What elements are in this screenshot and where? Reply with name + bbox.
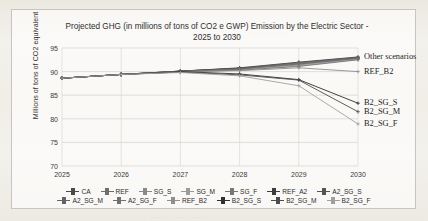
legend-marker-icon (217, 197, 230, 204)
plot-area: 707580859095202520262027202820292030 (62, 48, 358, 166)
annotation-label: REF_B2 (364, 67, 393, 77)
chart-legend: CAREFSG_SSG_MSG_FREF_A2A2_SG_SA2_SG_MA2_… (28, 188, 400, 204)
series-marker (297, 78, 301, 82)
legend-label: A2_SG_M (72, 197, 102, 204)
legend-label: REF_B2 (182, 197, 207, 204)
chart-container: Projected GHG (in millions of tons of CO… (11, 9, 416, 209)
legend-marker-icon (57, 197, 70, 204)
legend-item-b2_sg_f[interactable]: B2_SG_F (327, 197, 371, 204)
y-axis-title: Millions of tons of CO2 equivalent (32, 12, 39, 120)
legend-marker-icon (271, 197, 284, 204)
series-line (62, 72, 358, 104)
y-axis-tick: 80 (50, 115, 58, 122)
legend-label: A2_SG_S (332, 188, 361, 195)
legend-item-sg_m[interactable]: SG_M (181, 188, 215, 195)
legend-label: SG_S (154, 188, 172, 195)
legend-marker-icon (327, 197, 340, 204)
legend-marker-icon (101, 188, 114, 195)
annotation-label: Other scenarios (364, 52, 416, 62)
legend-row: CAREFSG_SSG_MSG_FREF_A2A2_SG_S (61, 188, 366, 195)
legend-item-sg_f[interactable]: SG_F (225, 188, 257, 195)
y-axis-tick: 75 (50, 139, 58, 146)
legend-item-b2_sg_s[interactable]: B2_SG_S (217, 197, 261, 204)
legend-marker-icon (139, 188, 152, 195)
legend-item-sg_s[interactable]: SG_S (139, 188, 172, 195)
x-axis-tick: 2026 (113, 171, 129, 178)
legend-marker-icon (113, 197, 126, 204)
series-marker (119, 73, 123, 77)
series-lines (60, 55, 360, 126)
legend-label: B2_SG_S (232, 197, 261, 204)
series-line (62, 72, 358, 112)
series-marker (356, 101, 360, 105)
legend-marker-icon (225, 188, 238, 195)
legend-item-b2_sg_m[interactable]: B2_SG_M (271, 197, 316, 204)
legend-label: REF_A2 (282, 188, 307, 195)
legend-item-ca[interactable]: CA (66, 188, 90, 195)
legend-label: A2_SG_F (128, 197, 157, 204)
annotation-label: B2_SG_F (364, 119, 398, 129)
x-axis-tick: 2028 (232, 171, 248, 178)
gridlines (62, 48, 358, 166)
y-axis-tick: 85 (50, 92, 58, 99)
legend-marker-icon (267, 188, 280, 195)
y-axis-tick: 90 (50, 68, 58, 75)
legend-marker-icon (317, 188, 330, 195)
legend-marker-icon (181, 188, 194, 195)
legend-label: REF (116, 188, 129, 195)
legend-label: B2_SG_F (342, 197, 371, 204)
chart-title-line1: Projected GHG (in millions of tons of CO… (65, 22, 337, 31)
legend-item-ref_a2[interactable]: REF_A2 (267, 188, 307, 195)
series-line (62, 73, 358, 124)
x-axis-tick: 2029 (291, 171, 307, 178)
legend-item-a2_sg_m[interactable]: A2_SG_M (57, 197, 102, 204)
legend-marker-icon (66, 188, 79, 195)
annotation-label: B2_SG_M (364, 107, 400, 117)
legend-item-a2_sg_s[interactable]: A2_SG_S (317, 188, 361, 195)
plot-svg (62, 48, 358, 166)
x-gridlines (62, 48, 358, 166)
y-axis-tick: 70 (50, 163, 58, 170)
legend-row: A2_SG_MA2_SG_FREF_B2B2_SG_SB2_SG_MB2_SG_… (52, 197, 375, 204)
chart-title: Projected GHG (in millions of tons of CO… (58, 21, 376, 43)
x-axis-tick: 2030 (350, 171, 366, 178)
legend-label: SG_M (196, 188, 215, 195)
series-marker (356, 70, 360, 74)
x-axis-tick: 2027 (173, 171, 189, 178)
legend-label: B2_SG_M (286, 197, 316, 204)
y-axis-tick: 95 (50, 45, 58, 52)
legend-marker-icon (167, 197, 180, 204)
series-marker (356, 110, 360, 114)
series-marker (60, 76, 64, 80)
legend-label: CA (81, 188, 90, 195)
legend-item-ref[interactable]: REF (101, 188, 129, 195)
x-axis-tick: 2025 (54, 171, 70, 178)
background-ghost-text: ....... .... ....... (150, 210, 207, 220)
legend-label: SG_F (240, 188, 257, 195)
legend-item-a2_sg_f[interactable]: A2_SG_F (113, 197, 157, 204)
legend-item-ref_b2[interactable]: REF_B2 (167, 197, 207, 204)
